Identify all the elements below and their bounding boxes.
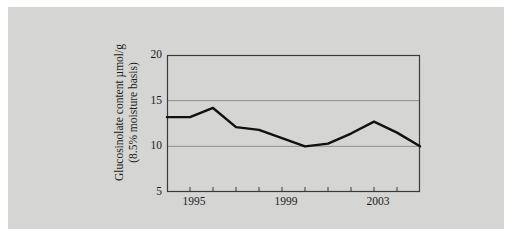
axis-frame	[168, 56, 420, 192]
plot-svg	[167, 55, 420, 192]
y-tick-label-10: 10	[138, 139, 162, 151]
chart-area: Glucosinolate content µmol/g (8.5% moist…	[8, 7, 504, 229]
data-series-line	[167, 108, 420, 146]
y-tick-label-15: 15	[138, 94, 162, 106]
x-tick-label-1999: 1999	[263, 195, 309, 207]
x-tick-label-2003: 2003	[355, 195, 401, 207]
y-tick-label-5: 5	[138, 185, 162, 197]
y-axis-title: Glucosinolate content µmol/g (8.5% moist…	[104, 37, 148, 202]
plot-frame	[168, 56, 420, 192]
y-axis-title-line1: Glucosinolate content µmol/g	[113, 44, 125, 181]
chart-panel: Glucosinolate content µmol/g (8.5% moist…	[8, 7, 504, 229]
x-tick-label-1995: 1995	[171, 195, 217, 207]
y-tick-label-20: 20	[138, 48, 162, 60]
plot-region	[167, 55, 420, 192]
series-polyline	[167, 108, 420, 146]
gridlines	[167, 101, 420, 147]
figure: Glucosinolate content µmol/g (8.5% moist…	[0, 0, 512, 236]
